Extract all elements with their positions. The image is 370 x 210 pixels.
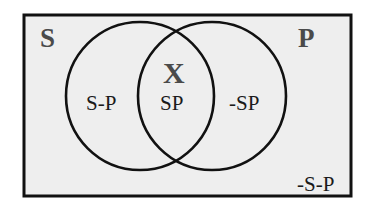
set-p-label: P xyxy=(298,25,315,52)
existence-mark-x: X xyxy=(163,58,185,88)
set-s-label: S xyxy=(40,25,55,52)
venn-diagram: S P X S-P SP -SP -S-P xyxy=(0,0,370,210)
region-s-only-label: S-P xyxy=(86,93,116,114)
region-p-only-label: -SP xyxy=(229,93,259,114)
region-outside-label: -S-P xyxy=(297,174,334,195)
region-intersection-label: SP xyxy=(160,93,183,114)
